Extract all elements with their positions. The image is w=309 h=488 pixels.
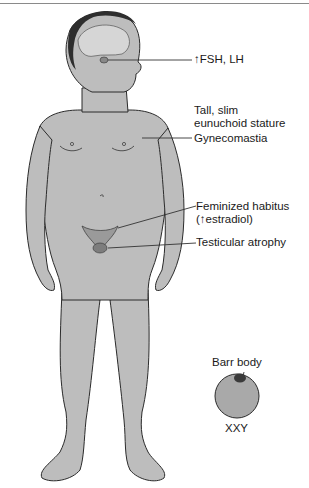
label-gynecomastia: Gynecomastia: [194, 132, 268, 145]
label-barr-body: Barr body: [212, 356, 262, 369]
label-stature-1: Tall, slim: [194, 104, 238, 117]
label-karyotype: XXY: [225, 422, 248, 435]
label-testes: Testicular atrophy: [196, 236, 286, 249]
barr-body: [234, 374, 246, 383]
pituitary: [100, 57, 108, 63]
label-fsh-lh: ↑FSH, LH: [194, 53, 244, 66]
label-stature-2: eunuchoid stature: [194, 117, 285, 130]
label-habitus-2: (↑estradiol): [196, 213, 253, 226]
label-habitus-1: Feminized habitus: [196, 200, 289, 213]
